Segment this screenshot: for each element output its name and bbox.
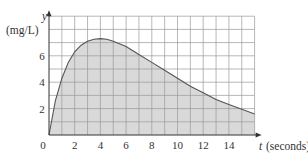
y-axis-variable: y [41,10,48,23]
y-axis-unit: (mg/L) [6,24,39,37]
x-tick-label: 8 [149,139,155,151]
y-axis-arrow-icon [47,10,52,16]
y-tick-labels: 246 [39,50,45,115]
y-tick-label: 6 [39,50,45,62]
x-tick-label: 4 [98,139,104,151]
y-tick-label: 4 [39,76,45,88]
x-axis-unit: (seconds) [266,140,308,153]
chart: 02468101214 246 y (mg/L) t (seconds) [0,0,308,153]
x-tick-label: 10 [172,139,184,151]
x-tick-label: 12 [198,139,209,151]
x-tick-label: 14 [223,139,235,151]
x-axis-arrow-icon [256,133,262,138]
x-tick-labels: 02468101214 [40,139,235,151]
x-axis-variable: t [259,140,263,152]
x-tick-label: 0 [40,139,46,151]
y-tick-label: 2 [39,103,45,115]
x-tick-label: 6 [123,139,129,151]
x-tick-label: 2 [72,139,78,151]
